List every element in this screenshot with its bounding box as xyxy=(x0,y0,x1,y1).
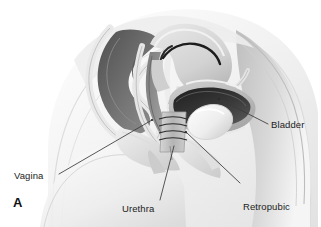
dot-bladder xyxy=(218,98,220,100)
dot-vagina xyxy=(151,119,153,121)
label-bladder: Bladder xyxy=(271,119,304,130)
label-retropubic-line1: Retropubic xyxy=(243,201,292,212)
label-vagina: Vagina xyxy=(14,170,43,181)
panel-letter: A xyxy=(13,195,22,210)
label-retropubic-suspension: Retropubic suspension xyxy=(243,179,292,227)
label-urethra: Urethra xyxy=(122,203,154,214)
dot-retropubic xyxy=(185,131,187,133)
figure-panel-a: Vagina Urethra Bladder Retropubic suspen… xyxy=(0,0,321,227)
